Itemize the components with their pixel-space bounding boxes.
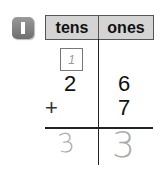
tens-header: tens	[46, 16, 99, 39]
number-one-glyph	[21, 22, 25, 34]
carry-box[interactable]: 1	[60, 48, 83, 71]
addend2-ones: 7	[118, 95, 130, 121]
answer-ones[interactable]: 3	[112, 124, 135, 165]
carry-value: 1	[68, 53, 75, 67]
plus-sign: +	[45, 95, 58, 121]
column-divider	[98, 39, 99, 165]
place-value-header: tens ones	[45, 15, 154, 40]
answer-tens[interactable]: 3	[56, 127, 77, 159]
addend1-tens: 2	[64, 71, 76, 97]
addend1-ones: 6	[118, 71, 130, 97]
ones-header: ones	[99, 16, 153, 39]
problem-number-badge	[12, 17, 34, 39]
